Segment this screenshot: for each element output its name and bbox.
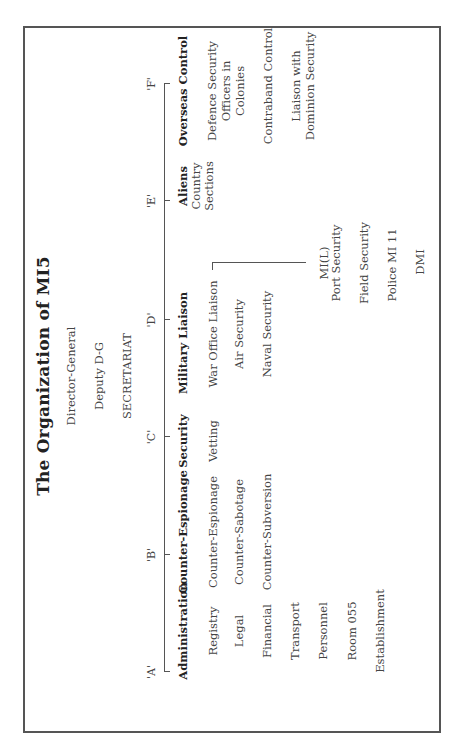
- tick-f: [164, 83, 170, 84]
- deputy-dg: Deputy D-G: [93, 342, 105, 410]
- code-f: 'F': [146, 77, 158, 91]
- division-spine: [164, 83, 165, 672]
- section-counter-sabotage: Counter-Sabotage: [233, 479, 245, 585]
- tick-b: [164, 554, 170, 555]
- section-defence-security: Defence Security: [206, 41, 218, 141]
- section-personnel: Personnel: [317, 602, 329, 660]
- code-c: 'C': [146, 430, 158, 444]
- bracket-stub: [212, 262, 213, 270]
- section-transport: Transport: [289, 602, 301, 660]
- section-liaison-with: Liaison with: [290, 50, 302, 121]
- section-air-security: Air Security: [233, 299, 245, 369]
- heading-overseas-control: Overseas Control: [177, 36, 189, 146]
- director-general: Director-General: [65, 327, 77, 426]
- heading-military-liaison: Military Liaison: [177, 292, 189, 394]
- section-counter-subversion: Counter-Subversion: [261, 474, 273, 591]
- section-counter-espionage: Counter-Espionage: [207, 476, 219, 588]
- section-room-055: Room 055: [346, 601, 358, 660]
- heading-security: Security: [177, 414, 189, 467]
- section-financial: Financial: [261, 604, 273, 658]
- section-contraband-control: Contraband Control: [262, 28, 274, 145]
- tick-e: [164, 200, 170, 201]
- section-war-office-liaison: War Office Liaison: [207, 280, 219, 387]
- section-naval-security: Naval Security: [261, 291, 273, 377]
- sub-field-security: Field Security: [358, 222, 370, 304]
- sub-port-security: Port Security: [330, 225, 342, 302]
- section-legal: Legal: [233, 615, 245, 647]
- org-chart: The Organization of MI5 Director-General…: [0, 0, 464, 754]
- sub-dmi: DMI: [414, 249, 426, 275]
- section-registry: Registry: [207, 606, 219, 655]
- section-country: Country: [190, 162, 202, 209]
- tick-a: [164, 671, 170, 672]
- section-establishment: Establishment: [374, 589, 386, 673]
- code-a: 'A': [146, 665, 158, 679]
- heading-administration: Administration: [177, 582, 189, 679]
- code-e: 'E': [146, 194, 158, 208]
- chart-title: The Organization of MI5: [35, 256, 53, 496]
- heading-counter-espionage: Counter-Espionage: [177, 470, 189, 594]
- section-dominion-security: Dominion Security: [304, 32, 316, 141]
- bracket-line: [212, 262, 306, 263]
- sub-police-mi11: Police MI 11: [386, 228, 398, 301]
- code-b: 'B': [146, 548, 158, 562]
- tick-c: [164, 436, 170, 437]
- tick-d: [164, 319, 170, 320]
- section-officers-in: Officers in: [220, 61, 232, 122]
- section-sections: Sections: [203, 161, 215, 211]
- code-d: 'D': [146, 313, 158, 328]
- section-colonies: Colonies: [234, 66, 246, 116]
- secretariat: SECRETARIAT: [121, 333, 133, 419]
- section-vetting: Vetting: [207, 420, 219, 462]
- heading-aliens: Aliens: [177, 166, 189, 206]
